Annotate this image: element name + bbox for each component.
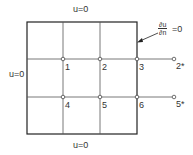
node-label-1: 1 [65,63,70,72]
fraction-denominator: ∂n [158,29,167,36]
bottom-boundary-label: u=0 [73,141,88,150]
top-boundary-label: u=0 [73,5,88,14]
node-label-6: 6 [139,101,144,110]
ghost-node-label-2star: 2* [176,62,185,71]
node-6 [135,95,139,99]
node-4 [61,95,65,99]
left-boundary-label: u=0 [9,70,24,79]
node-3 [135,57,139,61]
node-5 [98,95,102,99]
node-label-2: 2 [102,63,107,72]
right-boundary-rhs: =0 [172,25,182,34]
domain-boundary [27,22,137,134]
arrow-head-icon [137,38,143,43]
node-2 [98,57,102,61]
right-boundary-fraction: ∂u ∂n [158,21,167,36]
ghost-node-label-5star: 5* [176,100,185,109]
node-label-5: 5 [102,101,107,110]
node-label-3: 3 [139,63,144,72]
fraction-numerator: ∂u [158,21,167,29]
node-1 [61,57,65,61]
arrow-line [140,33,158,41]
node-label-4: 4 [65,101,70,110]
